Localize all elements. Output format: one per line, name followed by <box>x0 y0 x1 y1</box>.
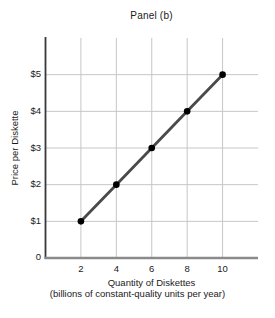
x-axis-subtitle: (billions of constant-quality units per … <box>6 288 269 299</box>
y-axis-title: Price per Diskette <box>9 111 20 186</box>
origin-tick-label: 0 <box>9 251 41 262</box>
data-point-marker <box>78 218 85 225</box>
x-tick-label: 4 <box>104 263 128 274</box>
data-point-marker <box>219 71 226 78</box>
x-tick-label: 10 <box>211 263 235 274</box>
y-tick-label: $1 <box>9 215 41 226</box>
x-tick-label: 6 <box>140 263 164 274</box>
x-tick-label: 8 <box>175 263 199 274</box>
x-tick-label: 2 <box>69 263 93 274</box>
x-axis-title: Quantity of Diskettes <box>20 277 275 288</box>
data-point-marker <box>184 108 191 115</box>
data-point-marker <box>113 181 120 188</box>
data-point-marker <box>148 145 155 152</box>
figure-panel-b: Panel (b) 246810$1$2$3$4$50 Price per Di… <box>0 0 275 318</box>
y-tick-label: $5 <box>9 68 41 79</box>
